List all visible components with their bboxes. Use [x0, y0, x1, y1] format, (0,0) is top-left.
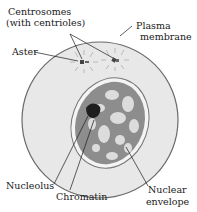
chromatin-label: Chromatin	[56, 191, 107, 202]
aster-label: Aster	[12, 46, 38, 57]
nuclear-label-sub: envelope	[146, 196, 189, 207]
nucleolus-label: Nucleolus	[6, 180, 54, 191]
centrosomes-label-sub: (with centrioles)	[6, 17, 85, 28]
centrosomes-label: Centrosomes	[8, 6, 71, 17]
centriole-left	[80, 60, 84, 64]
plasma-label-sub: membrane	[140, 31, 192, 42]
nuclear-label: Nuclear	[148, 184, 187, 195]
cell-diagram: Centrosomes (with centrioles) Plasma mem…	[0, 0, 197, 212]
plasma-label: Plasma	[136, 20, 171, 31]
